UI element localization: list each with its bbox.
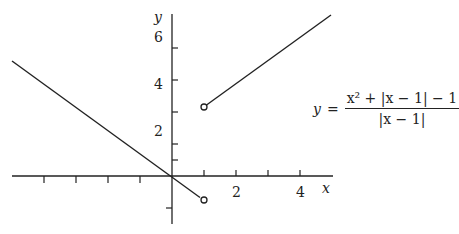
function-formula: y = x² + |x − 1| − 1 |x − 1|: [313, 90, 459, 127]
y-tick-label-4: 4: [154, 77, 163, 91]
formula-fraction: x² + |x − 1| − 1 |x − 1|: [345, 90, 459, 127]
formula-equals: =: [327, 101, 339, 117]
x-tick-label-2: 2: [232, 185, 241, 199]
y-tick-label-6: 6: [154, 30, 163, 44]
formula-lhs: y: [313, 101, 321, 117]
formula-numerator: x² + |x − 1| − 1: [345, 90, 459, 109]
x-axis-label: x: [322, 181, 330, 195]
x-tick-label-4: 4: [296, 185, 305, 199]
open-circle-upper: [201, 104, 207, 110]
y-tick-label-2: 2: [154, 124, 163, 138]
y-axis-label: y: [154, 10, 162, 24]
formula-denominator: |x − 1|: [378, 109, 425, 127]
open-circle-lower: [201, 197, 207, 203]
